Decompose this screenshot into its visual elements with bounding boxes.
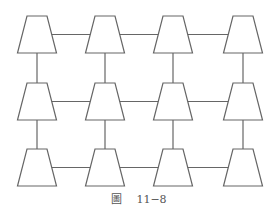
trapezoid-node — [86, 16, 125, 53]
trapezoid-node — [86, 83, 125, 120]
trapezoid-node — [18, 149, 57, 186]
trapezoid-node — [224, 149, 263, 186]
trapezoid-node — [224, 16, 263, 53]
trapezoid-node — [154, 149, 193, 186]
caption-number: 11−8 — [136, 193, 166, 206]
trapezoid-node — [154, 83, 193, 120]
trapezoid-node — [86, 149, 125, 186]
trapezoid-node — [18, 16, 57, 53]
caption-label: 圖 — [111, 190, 122, 206]
trapezoid-node — [224, 83, 263, 120]
trapezoid-node — [18, 83, 57, 120]
trapezoid-node — [154, 16, 193, 53]
grid-network-diagram — [0, 0, 278, 215]
figure-caption: 圖11−8 — [0, 190, 278, 206]
connector-lines — [37, 35, 243, 168]
